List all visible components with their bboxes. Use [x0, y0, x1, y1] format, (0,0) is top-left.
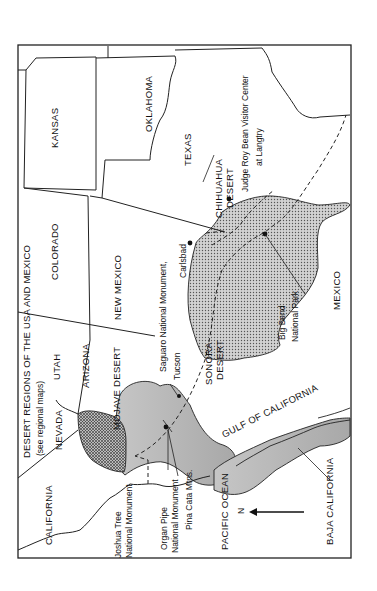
label-joshua-tree-2: National Monument	[124, 484, 134, 558]
label-big-bend-1: Big Bend	[277, 305, 287, 340]
label-chihuahua-desert-2: DESERT	[224, 168, 235, 208]
label-mojave-desert: MOJAVE DESERT	[111, 347, 122, 430]
label-baja-california: BAJA CALIFORNIA	[324, 457, 335, 545]
label-kansas: KANSAS	[49, 108, 60, 148]
label-mexico: MEXICO	[331, 271, 342, 310]
label-tucson: Tucson	[172, 352, 182, 380]
label-big-bend-2: National Park	[290, 290, 300, 342]
label-sonora-desert-1: SONORA	[203, 342, 214, 385]
label-nevada: NEVADA	[53, 409, 64, 450]
label-california: CALIFORNIA	[43, 485, 54, 545]
label-joshua-tree-1: Joshua Tree	[113, 511, 123, 558]
label-pina-cata: Pina Cata Mtns.	[184, 470, 194, 530]
label-colorado: COLORADO	[49, 223, 60, 280]
label-organ-pipe-1: Organ Pipe	[159, 507, 169, 550]
label-organ-pipe-2: National Monument	[170, 479, 180, 553]
label-judge-roy-bean: Judge Roy Bean Visitor Center	[240, 75, 250, 192]
label-texas: TEXAS	[182, 133, 193, 166]
north-label: N	[236, 508, 246, 514]
label-pacific-ocean: PACIFIC OCEAN	[219, 473, 230, 550]
label-langtry: at Langtry	[254, 127, 264, 166]
label-utah: UTAH	[51, 354, 62, 380]
label-oklahoma: OKLAHOMA	[143, 75, 154, 132]
map-subtitle: (see regional maps)	[35, 381, 45, 456]
map-title: DESERT REGIONS OF THE USA AND MEXICO	[21, 245, 32, 458]
desert-regions-map: N KANSAS OKLAHOMA TEXAS COLORADO NEW MEX…	[0, 0, 377, 591]
label-saguaro: Saguaro National Monument,	[158, 261, 168, 372]
label-carlsbad: Carlsbad	[178, 244, 188, 278]
label-new-mexico: NEW MEXICO	[112, 255, 123, 320]
label-chihuahua-desert-1: CHIHUAHUA	[213, 158, 224, 218]
label-arizona: ARIZONA	[80, 343, 91, 388]
label-sonora-desert-2: DESERT	[214, 340, 225, 380]
